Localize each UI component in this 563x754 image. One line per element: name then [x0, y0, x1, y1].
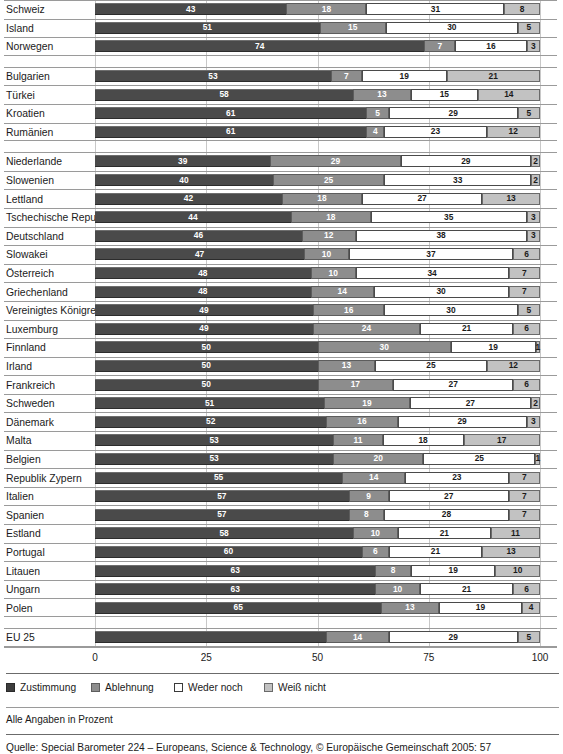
bar-segment-4: 5 [518, 107, 540, 119]
table-row[interactable]: Republik Zypern5514237 [0, 468, 563, 487]
stacked-bar: 4318318 [95, 3, 540, 15]
table-row[interactable]: Estland58102111 [0, 524, 563, 543]
row-rule [4, 0, 557, 1]
bar-segment-value: 21 [431, 547, 440, 556]
table-row[interactable]: Türkei58131514 [0, 85, 563, 104]
table-row[interactable]: Schweden5119272 [0, 394, 563, 413]
legend-item[interactable]: Ablehnung [91, 682, 154, 693]
legend-item[interactable]: Weiß nicht [264, 682, 326, 693]
bar-segment-1: 50 [95, 360, 318, 372]
bar-segment-value: 47 [195, 250, 204, 259]
table-row[interactable]: Vereinigtes Königreich4916305 [0, 301, 563, 320]
bar-segment-3: 27 [410, 397, 531, 409]
table-row[interactable]: Dänemark5216293 [0, 412, 563, 431]
bar-segment-value: 13 [506, 194, 515, 203]
bar-segment-value: 19 [362, 399, 371, 408]
table-row[interactable]: Tschechische Republik4418353 [0, 208, 563, 227]
bar-segment-value: 7 [522, 269, 527, 278]
table-row[interactable]: Ungarn6310216 [0, 580, 563, 599]
bar-segment-3: 18 [383, 434, 464, 446]
bar-segment-1: 40 [95, 174, 273, 186]
stacked-bar: 58102111 [95, 527, 540, 539]
table-row[interactable]: Norwegen747163 [0, 37, 563, 56]
table-row[interactable]: Irland50132512 [0, 357, 563, 376]
row-label: Bulgarien [6, 71, 50, 82]
table-row[interactable]: Schweiz4318318 [0, 0, 563, 19]
bar-segment-value: 21 [462, 585, 471, 594]
bar-segment-value: 11 [354, 436, 363, 445]
bar-segment-value: 29 [457, 417, 466, 426]
bar-segment-value: 51 [205, 399, 214, 408]
table-row[interactable]: Griechenland4814307 [0, 282, 563, 301]
bar-segment-value: 46 [194, 231, 203, 240]
table-row[interactable]: Island5115305 [0, 19, 563, 38]
table-row[interactable]: Lettland42182713 [0, 189, 563, 208]
row-rule [4, 543, 557, 544]
bar-segment-value: 28 [442, 510, 451, 519]
group-separator [0, 141, 563, 152]
bar-segment-value: 11 [511, 529, 520, 538]
note-text: Alle Angaben in Prozent [6, 714, 559, 725]
bar-segment-3: 15 [411, 89, 478, 101]
row-rule [4, 19, 557, 20]
bar-segment-value: 51 [203, 23, 212, 32]
bar-segment-value: 6 [524, 324, 529, 333]
bar-segment-1: 63 [95, 565, 375, 577]
table-row[interactable]: Polen6513194 [0, 598, 563, 617]
table-row[interactable]: Litauen6381910 [0, 561, 563, 580]
table-row[interactable]: Deutschland4612383 [0, 227, 563, 246]
bar-segment-value: 5 [527, 306, 532, 315]
stacked-bar: 6513194 [95, 602, 540, 614]
table-row[interactable]: Slowenien4025332 [0, 171, 563, 190]
bar-segment-2: 20 [333, 453, 423, 465]
bar-segment-4: 1 [536, 341, 540, 353]
table-row[interactable]: Kroatien615295 [0, 104, 563, 123]
bar-segment-value: 7 [438, 42, 443, 51]
bar-segment-2: 9 [349, 490, 389, 502]
row-rule [4, 85, 557, 86]
bar-segment-4: 12 [487, 126, 540, 138]
bar-segment-value: 25 [475, 454, 484, 463]
bar-segment-value: 7 [344, 72, 349, 81]
table-row[interactable]: Luxemburg4924216 [0, 320, 563, 339]
table-row[interactable]: Belgien5320251 [0, 450, 563, 469]
row-rule [4, 104, 557, 105]
table-row[interactable]: Slowakei4710376 [0, 245, 563, 264]
bar-segment-value: 55 [214, 473, 223, 482]
table-row[interactable]: Frankreich5017276 [0, 375, 563, 394]
row-label: Finnland [6, 342, 46, 353]
bar-segment-4: 21 [447, 70, 540, 82]
table-row[interactable]: Italien579277 [0, 487, 563, 506]
source-text: Quelle: Special Barometer 224 – European… [6, 742, 559, 754]
table-row[interactable]: Malta53111817 [0, 431, 563, 450]
row-rule [4, 37, 557, 38]
table-row[interactable]: EU 2514295 [0, 628, 563, 647]
row-label: Rumänien [6, 126, 53, 137]
bar-segment-4: 5 [518, 22, 540, 34]
stacked-bar: 5017276 [95, 379, 540, 391]
bar-segment-1: 51 [95, 397, 324, 409]
bar-segment-value: 14 [504, 90, 513, 99]
bar-segment-4: 7 [509, 267, 540, 279]
table-row[interactable]: Österreich4810347 [0, 264, 563, 283]
table-row[interactable]: Portugal6062113 [0, 543, 563, 562]
stacked-bar: 4924216 [95, 323, 540, 335]
table-row[interactable]: Spanien578287 [0, 505, 563, 524]
bar-segment-2: 17 [318, 379, 394, 391]
row-rule [4, 375, 557, 376]
bar-segment-value: 27 [444, 492, 453, 501]
stacked-bar: 578287 [95, 509, 540, 521]
bar-segment-4: 14 [478, 89, 540, 101]
row-label: Luxemburg [6, 323, 58, 334]
bar-segment-value: 27 [417, 194, 426, 203]
bar-segment-value: 6 [524, 585, 529, 594]
legend-item[interactable]: Weder noch [174, 682, 243, 693]
table-row[interactable]: Bulgarien5371921 [0, 67, 563, 86]
table-row[interactable]: Rumänien6142312 [0, 123, 563, 142]
bar-segment-value: 25 [324, 176, 333, 185]
table-row[interactable]: Finnland5030191 [0, 338, 563, 357]
bar-segment-value: 44 [188, 213, 197, 222]
bar-segment-4: 5 [518, 631, 540, 643]
table-row[interactable]: Niederlande3929292 [0, 152, 563, 171]
legend-item[interactable]: Zustimmung [6, 682, 76, 693]
